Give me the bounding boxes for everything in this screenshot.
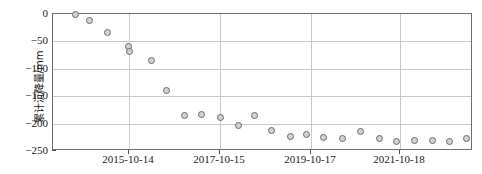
data-point — [251, 112, 258, 119]
data-point — [181, 112, 188, 119]
data-point — [339, 135, 346, 142]
gridline-horizontal — [53, 69, 471, 70]
data-point — [72, 11, 79, 18]
data-point — [268, 127, 275, 134]
gridline-vertical — [129, 14, 130, 149]
y-tick-label: −200 — [25, 118, 48, 129]
gridline-vertical — [400, 14, 401, 149]
data-point — [163, 87, 170, 94]
y-tick-label: 0 — [43, 8, 49, 19]
x-tick-label: 2015-10-14 — [102, 154, 153, 165]
data-point — [86, 17, 93, 24]
gridline-vertical — [311, 14, 312, 149]
gridline-horizontal — [53, 96, 471, 97]
data-point — [320, 134, 327, 141]
plot-area — [52, 13, 472, 150]
data-point — [446, 138, 453, 145]
data-point — [376, 135, 383, 142]
gridline-vertical — [220, 14, 221, 149]
x-tick-label: 2017-10-15 — [193, 154, 244, 165]
data-point — [287, 133, 294, 140]
data-point — [411, 137, 418, 144]
gridline-horizontal — [53, 124, 471, 125]
data-point — [126, 48, 133, 55]
y-tick-label: −100 — [25, 63, 48, 74]
y-tick-label: −50 — [31, 35, 48, 46]
gridline-horizontal — [53, 41, 471, 42]
y-tick-label: −250 — [25, 145, 48, 156]
data-point — [303, 131, 310, 138]
data-point — [198, 111, 205, 118]
data-point — [357, 128, 364, 135]
data-point — [463, 135, 470, 142]
x-tick-label: 2019-10-17 — [284, 154, 335, 165]
data-point — [235, 122, 242, 129]
data-point — [217, 114, 224, 121]
data-point — [148, 57, 155, 64]
y-tick-mark — [52, 150, 56, 151]
data-point — [429, 137, 436, 144]
x-tick-label: 2021-10-18 — [373, 154, 424, 165]
y-tick-label: −150 — [25, 90, 48, 101]
settlement-scatter-chart: 累计沉降量/mm 0−50−100−150−200−250 2015-10-14… — [0, 0, 482, 174]
data-point — [104, 29, 111, 36]
data-point — [393, 138, 400, 145]
